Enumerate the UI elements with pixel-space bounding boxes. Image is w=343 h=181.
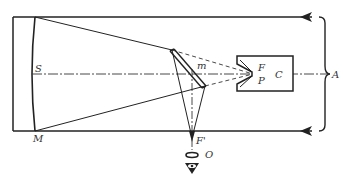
label-P: P (257, 75, 265, 86)
label-F: F (257, 62, 266, 73)
label-O: O (205, 149, 213, 160)
label-S: S (35, 63, 42, 74)
eyepiece-lens (186, 153, 198, 158)
telescope-diagram: S M m F P C A F' O (0, 0, 343, 181)
label-A: A (331, 69, 339, 80)
eye-icon (185, 163, 199, 174)
label-m: m (197, 60, 206, 71)
label-C: C (275, 69, 283, 80)
label-M: M (32, 133, 44, 144)
camera-housing (237, 56, 293, 91)
label-F-prime: F' (195, 135, 206, 146)
secondary-focus-marker (189, 131, 195, 142)
